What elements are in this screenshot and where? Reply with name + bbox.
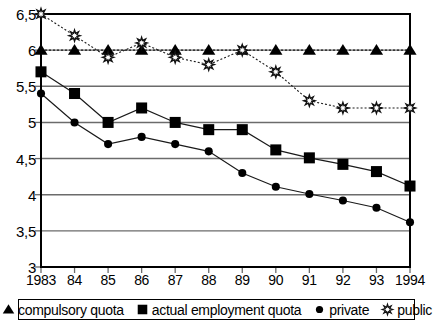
data-point-starburst-open	[337, 102, 348, 113]
data-point-circle-filled	[406, 218, 414, 226]
data-point-square-filled	[69, 88, 80, 99]
legend-item: public	[380, 302, 432, 317]
data-point-circle-filled	[37, 89, 45, 97]
data-point-circle-filled	[70, 118, 78, 126]
data-point-circle-filled	[104, 140, 112, 148]
data-point-square-filled	[237, 124, 248, 135]
x-axis-tick-label: 1983	[26, 272, 56, 288]
legend-item: compulsory quota	[1, 302, 124, 317]
data-point-square-filled	[337, 159, 348, 170]
data-point-square-filled	[404, 181, 415, 192]
data-point-starburst-open	[170, 52, 181, 63]
data-point-circle-filled	[205, 147, 213, 155]
data-point-starburst-open	[404, 102, 415, 113]
data-point-square-filled	[136, 102, 147, 113]
data-point-starburst-open	[136, 37, 147, 48]
legend-item-label: public	[397, 303, 432, 317]
data-point-starburst-open	[371, 102, 382, 113]
legend-item-label: actual employment quota	[152, 303, 302, 317]
x-axis-tick-label: 88	[201, 272, 216, 288]
data-point-square-filled	[371, 166, 382, 177]
legend-marker-icon	[312, 302, 327, 317]
data-point-square-filled	[35, 66, 46, 77]
data-point-circle-filled	[316, 306, 323, 313]
data-point-circle-filled	[238, 169, 246, 177]
data-point-triangle-filled	[303, 44, 316, 55]
legend-item-label: compulsory quota	[18, 303, 124, 317]
x-axis-tick-label: 93	[369, 272, 384, 288]
legend-marker-icon	[1, 302, 16, 317]
data-point-circle-filled	[171, 140, 179, 148]
x-axis-tick-label: 1994	[395, 272, 425, 288]
data-point-square-filled	[170, 117, 181, 128]
series-compulsory-quota	[34, 44, 416, 55]
data-point-triangle-filled	[3, 304, 15, 313]
data-point-starburst-open	[304, 95, 315, 106]
data-point-starburst-open	[35, 8, 46, 19]
data-point-circle-filled	[305, 190, 313, 198]
data-point-square-filled	[304, 152, 315, 163]
legend-marker-circle-filled	[312, 302, 327, 317]
legend-item: private	[312, 302, 369, 317]
x-axis-tick-label: 86	[134, 272, 149, 288]
legend-marker-triangle-filled	[1, 302, 16, 317]
chart-root: 33,544,555,566,5 19838485868788899091929…	[0, 0, 433, 325]
data-point-triangle-filled	[336, 44, 349, 55]
data-point-triangle-filled	[34, 44, 47, 55]
series-line	[41, 14, 410, 108]
x-axis-tick-label: 84	[67, 272, 82, 288]
legend-marker-icon	[135, 302, 150, 317]
data-point-triangle-filled	[370, 44, 383, 55]
x-axis-tick-label: 85	[101, 272, 116, 288]
series-line	[41, 72, 410, 186]
legend-marker-square-filled	[135, 302, 150, 317]
data-point-circle-filled	[372, 204, 380, 212]
x-axis-labels: 1983848586878889909192931994	[0, 272, 433, 294]
x-axis-tick-label: 92	[335, 272, 350, 288]
data-point-starburst-open	[270, 66, 281, 77]
data-point-square-filled	[203, 124, 214, 135]
data-point-triangle-filled	[202, 44, 215, 55]
x-axis-tick-label: 90	[268, 272, 283, 288]
data-point-square-filled	[137, 305, 147, 315]
data-point-starburst-open	[69, 30, 80, 41]
chart-legend: compulsory quotaactual employment quotap…	[18, 299, 415, 320]
data-point-square-filled	[270, 144, 281, 155]
data-point-starburst-open	[103, 52, 114, 63]
legend-item: actual employment quota	[135, 302, 302, 317]
legend-marker-starburst-open	[380, 302, 395, 317]
data-point-circle-filled	[272, 183, 280, 191]
series-public	[35, 8, 415, 113]
x-axis-tick-label: 91	[302, 272, 317, 288]
series-actual-employment-quota	[35, 66, 415, 191]
data-point-starburst-open	[237, 45, 248, 56]
data-point-circle-filled	[138, 133, 146, 141]
data-point-starburst-open	[203, 59, 214, 70]
legend-marker-icon	[380, 302, 395, 317]
data-point-triangle-filled	[68, 44, 81, 55]
x-axis-tick-label: 89	[235, 272, 250, 288]
x-axis-tick-label: 87	[168, 272, 183, 288]
data-point-circle-filled	[339, 196, 347, 204]
legend-item-label: private	[329, 303, 369, 317]
data-point-triangle-filled	[269, 44, 282, 55]
data-point-square-filled	[103, 117, 114, 128]
data-point-triangle-filled	[403, 44, 416, 55]
data-point-starburst-open	[383, 304, 393, 314]
